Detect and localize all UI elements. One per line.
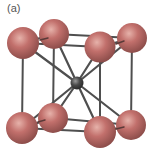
bcc-unit-cell-diagram [0,0,157,160]
center-atom [71,77,84,90]
atom-bottom-back-left [38,103,68,133]
atom-bottom-back-right [116,110,146,140]
atom-top-back-left [39,19,69,49]
atom-top-back-right [117,23,147,53]
atom-bottom-front-left [6,112,38,144]
atom-top-front-right [85,32,116,63]
atom-top-front-left [7,27,39,59]
atom-bottom-front-right [84,116,116,148]
